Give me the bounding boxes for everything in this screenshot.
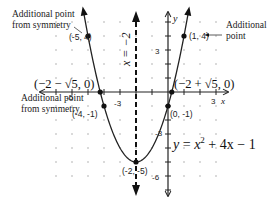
point-marker xyxy=(133,159,138,164)
grid-dot xyxy=(151,133,152,134)
grid-dot xyxy=(199,49,200,50)
annotation-top-right-line2: point xyxy=(226,31,246,41)
grid-dot xyxy=(55,63,56,64)
grid-dot xyxy=(71,147,72,148)
grid-dot xyxy=(71,161,72,162)
grid-dot xyxy=(55,161,56,162)
grid-dot xyxy=(103,35,104,36)
grid-dot xyxy=(119,119,120,120)
grid-dot xyxy=(71,175,72,176)
grid-dot xyxy=(71,21,72,22)
grid-dot xyxy=(103,21,104,22)
vertex-label: (-2, -5) xyxy=(122,166,148,176)
annotation-top-left-line2: from symmetry xyxy=(12,20,71,30)
grid-dot xyxy=(55,119,56,120)
grid-dot xyxy=(199,21,200,22)
point-marker xyxy=(101,103,106,108)
grid-dot xyxy=(183,105,184,106)
grid-dot xyxy=(151,35,152,36)
curve-right-arrow-icon xyxy=(184,7,191,16)
point-label-0-neg1: (0, -1) xyxy=(170,109,193,119)
grid-dot xyxy=(215,133,216,134)
grid-dot xyxy=(55,49,56,50)
grid-dot xyxy=(215,119,216,120)
grid-dot xyxy=(71,49,72,50)
grid-dot xyxy=(183,175,184,176)
point-label-neg5-4: (-5, 4) xyxy=(69,32,92,42)
annotation-top-right-line1: Additional xyxy=(226,20,267,30)
annotation-mid-left-line2: from symmetry xyxy=(21,104,80,114)
grid-dot xyxy=(103,63,104,64)
point-marker xyxy=(181,33,186,38)
grid-dot xyxy=(151,49,152,50)
x-axis-label: x xyxy=(220,96,225,106)
tick-label-y-neg6: -6 xyxy=(152,173,160,182)
intercept-left-label: (−2 − √5, 0) xyxy=(34,77,95,91)
intercept-right-label: (−2 + √5, 0) xyxy=(174,77,235,91)
grid-dot xyxy=(103,161,104,162)
grid-dot xyxy=(215,35,216,36)
grid-dot xyxy=(183,133,184,134)
grid-dot xyxy=(215,49,216,50)
grid-dot xyxy=(87,119,88,120)
grid-dot xyxy=(215,63,216,64)
tick-label-y-3: 3 xyxy=(155,47,160,56)
grid-dot xyxy=(103,175,104,176)
annotation-top-left-line1: Additional point xyxy=(12,9,75,19)
grid-dot xyxy=(135,35,136,36)
grid-dot xyxy=(103,133,104,134)
y-axis-label: y xyxy=(172,13,178,24)
grid-dot xyxy=(71,63,72,64)
grid-dot xyxy=(183,63,184,64)
grid-dot xyxy=(183,21,184,22)
grid-dot xyxy=(215,105,216,106)
grid-dot xyxy=(151,161,152,162)
tick-label-x-neg3: -3 xyxy=(114,99,122,108)
symmetry-top-arrow-icon xyxy=(132,11,140,22)
grid-dot xyxy=(119,161,120,162)
intercept-marker xyxy=(98,89,103,94)
tick-label-y-neg3: -3 xyxy=(155,129,163,138)
grid-dot xyxy=(103,49,104,50)
grid-dot xyxy=(103,147,104,148)
grid-dot xyxy=(151,105,152,106)
grid-dot xyxy=(87,63,88,64)
grid-dot xyxy=(199,175,200,176)
grid-dot xyxy=(55,147,56,148)
grid-dot xyxy=(55,133,56,134)
grid-dot xyxy=(151,63,152,64)
grid-dot xyxy=(103,77,104,78)
grid-dot xyxy=(199,63,200,64)
grid-dot xyxy=(87,175,88,176)
grid-dot xyxy=(103,119,104,120)
grid-dot xyxy=(119,21,120,22)
grid-dot xyxy=(183,161,184,162)
grid-dot xyxy=(199,119,200,120)
annotation-mid-left-line1: Additional point xyxy=(21,93,84,103)
grid-dot xyxy=(119,77,120,78)
grid-dot xyxy=(183,119,184,120)
curve-left-arrow-icon xyxy=(81,7,88,16)
grid-dot xyxy=(119,175,120,176)
grid-dot xyxy=(183,49,184,50)
grid-dot xyxy=(87,21,88,22)
equation-label: y = x2 + 4x − 1 xyxy=(171,135,256,152)
symmetry-bottom-arrow-icon xyxy=(132,185,140,196)
grid-dot xyxy=(119,133,120,134)
point-marker xyxy=(165,103,170,108)
grid-dot xyxy=(135,147,136,148)
grid-dot xyxy=(215,21,216,22)
axis-of-symmetry-label: x = −2 xyxy=(119,32,133,67)
grid-dot xyxy=(55,35,56,36)
grid-dot xyxy=(87,133,88,134)
grid-dot xyxy=(151,77,152,78)
parabola-graph: y x 3 3 -3 -5 -3 -6 (-5, 4) (1, 4) (-4, … xyxy=(0,0,277,206)
grid-dot xyxy=(215,161,216,162)
tick-label-x-3: 3 xyxy=(211,97,216,106)
grid-dot xyxy=(151,119,152,120)
grid-dot xyxy=(87,161,88,162)
grid-dot xyxy=(71,119,72,120)
grid-dot xyxy=(215,175,216,176)
grid-dot xyxy=(55,175,56,176)
grid-dot xyxy=(87,147,88,148)
